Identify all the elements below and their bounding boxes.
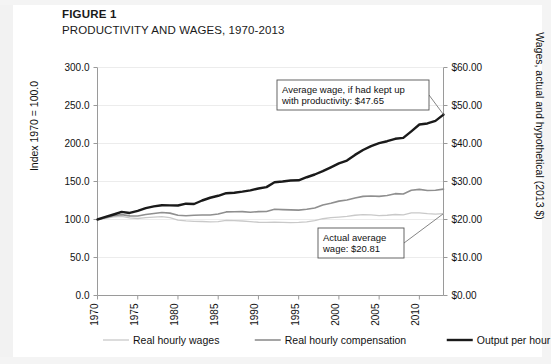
y-left-tick-0.0: 0.0 [76, 290, 90, 301]
series-line-output-per-hour [98, 115, 444, 220]
y-right-tick-2000: $20.00 [452, 214, 483, 225]
actual-wage-callout-line1: Actual average [323, 232, 386, 243]
hypothetical-wage-callout-line2: with productivity: $47.65 [281, 95, 384, 106]
y-left-tick-50.0: 50.0 [70, 252, 90, 263]
y-axis-right-tick-labels: $0.00$10.00$20.00$30.00$40.00$50.00$60.0… [452, 62, 483, 301]
data-series [98, 115, 444, 223]
x-tick-1985: 1985 [209, 303, 220, 326]
y-left-tick-150.0: 150.0 [64, 176, 89, 187]
chart-canvas: 0.050.0100.0150.0200.0250.0300.0 $0.00$1… [0, 0, 551, 364]
x-tick-2005: 2005 [370, 303, 381, 326]
x-tick-1975: 1975 [129, 303, 140, 326]
y-right-tick-4000: $40.00 [452, 138, 483, 149]
hypothetical-wage-callout: Average wage, if had kept upwith product… [277, 80, 444, 115]
x-tick-1990: 1990 [249, 303, 260, 326]
y-right-tick-000: $0.00 [452, 290, 477, 301]
y-left-tick-100.0: 100.0 [64, 214, 89, 225]
hypothetical-wage-callout-line1: Average wage, if had kept up [282, 84, 405, 95]
figure-page: FIGURE 1 PRODUCTIVITY AND WAGES, 1970-20… [0, 0, 551, 364]
chart-legend: Real hourly wagesReal hourly compensatio… [103, 334, 551, 346]
legend-label-1: Real hourly compensation [285, 334, 407, 346]
y-right-tick-6000: $60.00 [452, 62, 483, 73]
x-tick-1970: 1970 [89, 303, 100, 326]
y-right-tick-5000: $50.00 [452, 100, 483, 111]
y-right-tick-3000: $30.00 [452, 176, 483, 187]
annotation-callouts: Average wage, if had kept upwith product… [277, 80, 444, 258]
y-left-tick-300.0: 300.0 [64, 62, 89, 73]
x-tick-2000: 2000 [330, 303, 341, 326]
legend-label-0: Real hourly wages [133, 334, 219, 346]
x-axis-tick-labels: 197019751980198519901995200020052010 [89, 303, 422, 326]
y-axis-left-tick-labels: 0.050.0100.0150.0200.0250.0300.0 [64, 62, 89, 301]
x-tick-1995: 1995 [290, 303, 301, 326]
legend-label-2: Output per hour [477, 334, 551, 346]
y-left-tick-200.0: 200.0 [64, 138, 89, 149]
actual-wage-callout: Actual averagewage: $20.81 [318, 214, 444, 258]
x-tick-2010: 2010 [410, 303, 421, 326]
actual-wage-callout-line2: wage: $20.81 [322, 243, 380, 254]
y-left-tick-250.0: 250.0 [64, 100, 89, 111]
y-right-tick-1000: $10.00 [452, 252, 483, 263]
x-tick-1980: 1980 [169, 303, 180, 326]
